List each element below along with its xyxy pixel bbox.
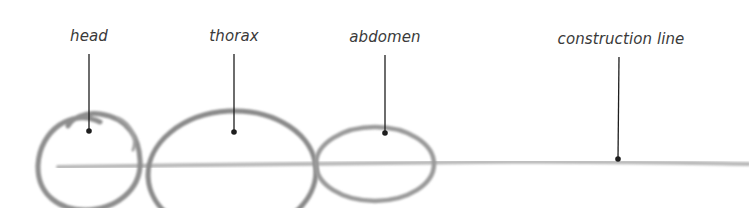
pointer-dot-icon — [382, 130, 388, 136]
label-construction-line: construction line — [558, 30, 685, 48]
label-head: head — [70, 27, 108, 45]
label-thorax: thorax — [209, 27, 258, 45]
pointer-dot-icon — [86, 128, 92, 134]
label-abdomen: abdomen — [349, 28, 420, 46]
construction-line — [58, 162, 749, 167]
pointer-abdomen — [382, 55, 388, 136]
pointer-head — [86, 54, 92, 134]
insect-sketch-diagram: head thorax abdomen construction line — [0, 0, 749, 208]
pointer-thorax — [231, 54, 237, 135]
thorax-shape — [145, 107, 319, 208]
pointer-dot-icon — [231, 129, 237, 135]
pointer-construction-line — [615, 57, 621, 162]
pointer-dot-icon — [615, 156, 621, 162]
